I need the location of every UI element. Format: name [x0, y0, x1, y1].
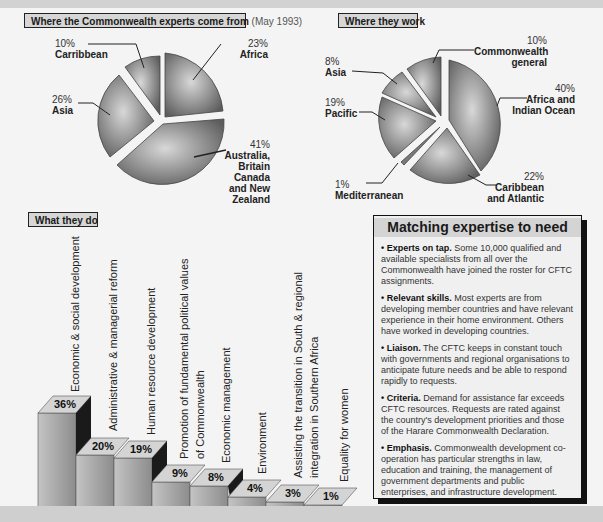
matching-item-liaison: • Liaison. The CFTC keeps in constant to… — [381, 343, 574, 387]
matching-item-emphasis: • Emphasis. Commonwealth development co-… — [381, 443, 574, 498]
bar-label-economic-social-development: Economic & social development — [69, 236, 81, 392]
bar-pct-2: 20% — [92, 440, 114, 452]
matching-title: Matching expertise to need — [374, 218, 581, 237]
bar-label-promotion-political-values-line1: Promotion of fundamental political value… — [178, 258, 190, 459]
matching-item-criteria: • Criteria. Demand for assistance far ex… — [381, 393, 574, 437]
bar-label-administrative-managerial-reform: Administrative & managerial reform — [107, 259, 119, 431]
bar-pct-7: 3% — [285, 487, 301, 499]
matching-item-experts-on-tap: • Experts on tap. Some 10,000 qualified … — [381, 243, 574, 287]
bar-label-economic-management: Economic management — [220, 347, 232, 463]
matching-item-heading: • Relevant skills. — [381, 293, 452, 303]
bar-label-environment: Environment — [256, 412, 268, 474]
matching-item-heading: • Liaison. — [381, 343, 421, 353]
matching-item-heading: • Experts on tap. — [381, 243, 452, 253]
bar-label-assisting-transition-line2: integration in Southern Africa — [308, 337, 320, 478]
bar-pct-4: 9% — [172, 467, 188, 479]
matching-expertise-panel: Matching expertise to need • Experts on … — [373, 215, 582, 499]
bar-label-promotion-political-values-line2: of Commonwealth — [194, 370, 206, 459]
bar-pct-3: 19% — [130, 443, 152, 455]
bar-pct-6: 4% — [247, 482, 263, 494]
bar-pct-5: 8% — [208, 471, 224, 483]
bar-label-human-resource-development: Human resource development — [145, 288, 157, 435]
bar-label-equality-for-women: Equality for women — [338, 388, 350, 482]
bar-pct-8: 1% — [323, 490, 339, 502]
matching-item-relevant-skills: • Relevant skills. Most experts are from… — [381, 293, 574, 337]
bar-label-assisting-transition-line1: Assisting the transition in South & regi… — [292, 272, 304, 478]
bottom-border-strip — [0, 506, 603, 522]
matching-item-heading: • Criteria. — [381, 393, 421, 403]
bar-pct-1: 36% — [54, 398, 76, 410]
matching-item-heading: • Emphasis. — [381, 443, 432, 453]
